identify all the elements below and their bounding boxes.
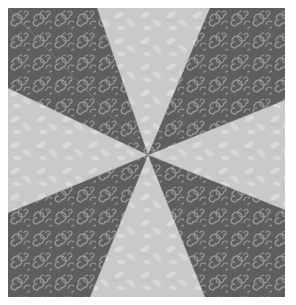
pinwheel-quilt-block — [8, 8, 285, 297]
quilt-illustration — [8, 8, 285, 297]
